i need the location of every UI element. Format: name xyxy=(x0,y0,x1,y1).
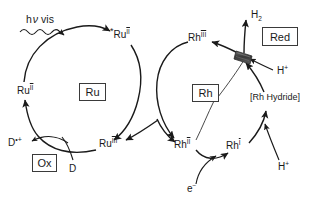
proton-input-arrow-upper xyxy=(250,59,273,70)
ox-box: Ox xyxy=(32,154,57,172)
excited-ruthenium-label: *RuII xyxy=(110,30,130,40)
ruthenium-two-label: RuII xyxy=(17,86,33,96)
electron-input-arrow xyxy=(196,156,216,184)
rhodium-two-label: RhII xyxy=(174,140,190,150)
electron-label: e− xyxy=(187,184,196,194)
rh-hydride-label: [Rh Hydride] xyxy=(250,93,300,102)
red-box: Red xyxy=(262,27,298,46)
ru-cycle-center-box: Ru xyxy=(79,83,106,101)
rhodium-one-label: RhI xyxy=(226,141,241,151)
hydrogen-evolution-arrow xyxy=(244,20,246,53)
rh-cycle-center-box: Rh xyxy=(192,84,219,102)
proton-input-arrow-lower xyxy=(265,124,279,160)
reaction-scheme-diagram: hνvis *RuII RuII RuIII Ru D•+ D Ox RhIII… xyxy=(0,0,329,202)
catalyst-particle-icon xyxy=(234,51,252,64)
donor-label: D xyxy=(69,164,76,174)
rhodium-three-label: RhIII xyxy=(188,33,206,43)
ruthenium-three-label: RuIII xyxy=(99,139,117,149)
proton-label-lower: H+ xyxy=(278,162,289,172)
photon-label: hνvis xyxy=(26,14,54,25)
donor-radical-cation-label: D•+ xyxy=(8,138,22,148)
proton-label-upper: H+ xyxy=(277,66,288,76)
hydrogen-gas-label: H2 xyxy=(251,10,262,20)
